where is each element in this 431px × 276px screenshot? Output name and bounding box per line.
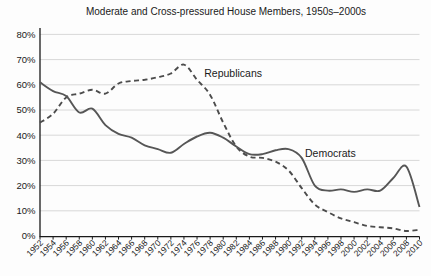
chart-title: Moderate and Cross-pressured House Membe… [86,6,366,17]
series-label-democrats: Democrats [305,147,356,159]
series-line-democrats [40,82,420,207]
plot-area: 0%10%20%30%40%50%60%70%80%19521954195619… [16,28,424,258]
y-tick-label: 60% [16,79,36,90]
y-tick-label: 40% [16,130,36,141]
y-tick-label: 0% [22,230,36,241]
y-tick-label: 50% [16,104,36,115]
y-tick-label: 20% [16,180,36,191]
y-tick-label: 10% [16,205,36,216]
series-line-republicans [40,65,420,232]
chart-figure: Moderate and Cross-pressured House Membe… [0,0,431,276]
y-tick-label: 30% [16,155,36,166]
y-tick-label: 80% [16,29,36,40]
line-chart: Moderate and Cross-pressured House Membe… [0,0,431,276]
y-tick-label: 70% [16,54,36,65]
series-label-republicans: Republicans [204,67,262,79]
